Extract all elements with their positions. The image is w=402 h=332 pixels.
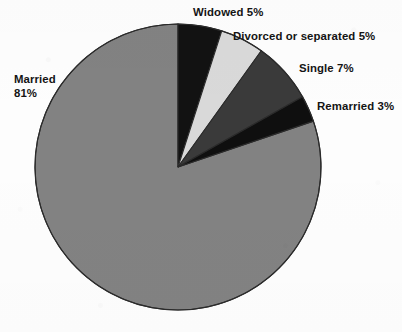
slice-label-remarried: Remarried 3%: [317, 100, 394, 114]
slice-label-single: Single 7%: [299, 62, 354, 76]
pie-chart-canvas: [0, 0, 402, 332]
slice-label-married-line2: 81%: [14, 87, 37, 101]
pie-chart-figure: Widowed 5% Divorced or separated 5% Sing…: [0, 0, 402, 332]
slice-label-widowed: Widowed 5%: [193, 6, 264, 20]
slice-label-married-line1: Married: [14, 73, 56, 87]
slice-label-divorced: Divorced or separated 5%: [233, 30, 375, 44]
